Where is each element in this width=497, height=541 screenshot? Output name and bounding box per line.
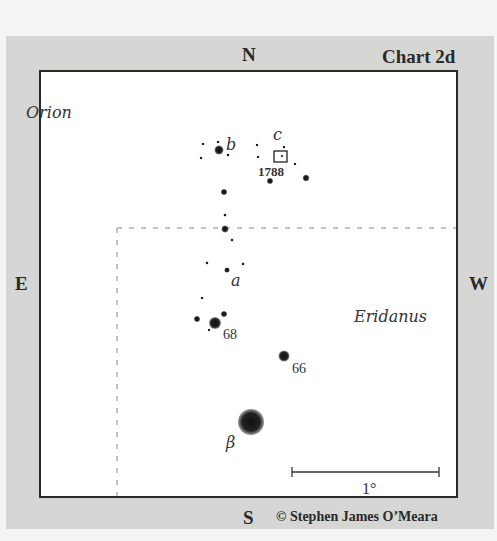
constellation-label-orion: Orion	[26, 103, 72, 122]
object-label-1788: 1788	[258, 164, 285, 179]
constellation-boundary	[117, 228, 456, 496]
star-label-beta: β	[225, 433, 235, 452]
stars	[194, 141, 309, 435]
star-field: Orion Eridanus b c a β 68 66 1788 1°	[0, 0, 497, 541]
nebula-marker	[274, 151, 287, 162]
star-label-66: 66	[292, 361, 306, 376]
scale-bar	[292, 467, 439, 477]
star-label-68: 68	[223, 327, 237, 342]
star-label-b: b	[226, 135, 236, 154]
star-label-a: a	[231, 271, 241, 290]
scale-bar-label: 1°	[362, 480, 376, 497]
star-label-c: c	[273, 125, 282, 144]
constellation-label-eridanus: Eridanus	[353, 307, 427, 326]
